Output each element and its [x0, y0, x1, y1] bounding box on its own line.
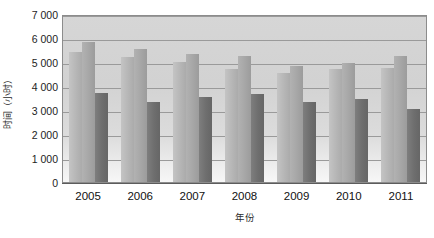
y-tick-label: 7 000: [32, 9, 58, 21]
bar-group: [115, 16, 167, 182]
x-tick-label: 2011: [375, 186, 427, 206]
y-axis-tick-labels: 01 0002 0003 0004 0005 0006 0007 000: [18, 8, 62, 190]
x-tick-label: 2009: [271, 186, 323, 206]
y-tick-label: 4 000: [32, 81, 58, 93]
bar: [199, 97, 212, 182]
y-tick-label: 5 000: [32, 57, 58, 69]
bar: [355, 99, 368, 182]
bar: [134, 49, 147, 182]
bar: [329, 69, 342, 182]
y-tick-label: 0: [52, 177, 58, 189]
x-tick-label: 2007: [166, 186, 218, 206]
bar-group: [63, 16, 115, 182]
bar: [69, 52, 82, 182]
bar: [173, 62, 186, 182]
x-axis-line: [62, 183, 427, 184]
x-axis-tick-labels: 2005200620072008200920102011: [62, 186, 427, 206]
bar-chart-figure: 时间（小时） 01 0002 0003 0004 0005 0006 0007 …: [0, 0, 434, 238]
y-tick-label: 2 000: [32, 129, 58, 141]
y-tick-label: 1 000: [32, 153, 58, 165]
bar-groups: [63, 16, 426, 182]
x-tick-label: 2008: [218, 186, 270, 206]
plot-area: [62, 15, 427, 183]
bar-group: [167, 16, 219, 182]
bar: [290, 66, 303, 182]
bar: [251, 94, 264, 182]
x-tick-label: 2005: [62, 186, 114, 206]
bar: [303, 102, 316, 182]
bar-group: [322, 16, 374, 182]
x-tick-label: 2006: [114, 186, 166, 206]
x-tick-label: 2010: [323, 186, 375, 206]
bar-group: [219, 16, 271, 182]
bar: [407, 109, 420, 182]
bar: [95, 93, 108, 182]
bar: [82, 42, 95, 182]
bar: [342, 63, 355, 182]
bar: [121, 57, 134, 182]
bar: [381, 68, 394, 182]
bar: [186, 54, 199, 182]
bar: [394, 56, 407, 182]
bar-group: [374, 16, 426, 182]
bar: [238, 56, 251, 182]
bar-group: [270, 16, 322, 182]
bar: [277, 73, 290, 182]
y-tick-label: 3 000: [32, 105, 58, 117]
y-tick-label: 6 000: [32, 33, 58, 45]
bar: [147, 102, 160, 182]
x-axis-title: 年份: [62, 210, 427, 224]
bar: [225, 69, 238, 182]
